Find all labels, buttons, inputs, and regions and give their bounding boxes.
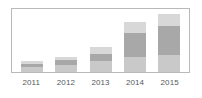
bar-segment-bottom <box>21 67 43 72</box>
bar-segment-middle <box>158 26 180 54</box>
bar-group-2014 <box>118 9 152 72</box>
bar-segment-bottom <box>90 61 112 72</box>
bar-stack[interactable] <box>90 47 112 72</box>
bar-group-2013 <box>83 9 117 72</box>
bar-group-2011 <box>15 9 49 72</box>
bar-stack[interactable] <box>55 57 77 73</box>
bar-segment-top <box>124 22 146 34</box>
plot-frame <box>11 8 190 73</box>
bar-stack[interactable] <box>124 22 146 72</box>
bar-segment-top <box>158 14 180 27</box>
x-tick-label: 2013 <box>83 75 118 91</box>
x-tick-label: 2012 <box>49 75 84 91</box>
bar-segment-top <box>90 47 112 54</box>
x-tick-label: 2014 <box>118 75 153 91</box>
bar-group-2015 <box>152 9 186 72</box>
bar-group-2012 <box>49 9 83 72</box>
x-tick-label: 2015 <box>152 75 187 91</box>
bar-segment-bottom <box>55 65 77 72</box>
bar-segment-middle <box>90 54 112 62</box>
plot-area <box>12 9 189 72</box>
bar-stack[interactable] <box>158 14 180 72</box>
bar-segment-bottom <box>158 55 180 72</box>
bar-segment-bottom <box>124 57 146 73</box>
x-tick-label: 2011 <box>14 75 49 91</box>
bar-segment-middle <box>124 33 146 56</box>
x-axis-tick-labels: 2011 2012 2013 2014 2015 <box>11 75 190 91</box>
stacked-bar-chart: 2011 2012 2013 2014 2015 <box>0 0 202 98</box>
bar-stack[interactable] <box>21 61 43 72</box>
